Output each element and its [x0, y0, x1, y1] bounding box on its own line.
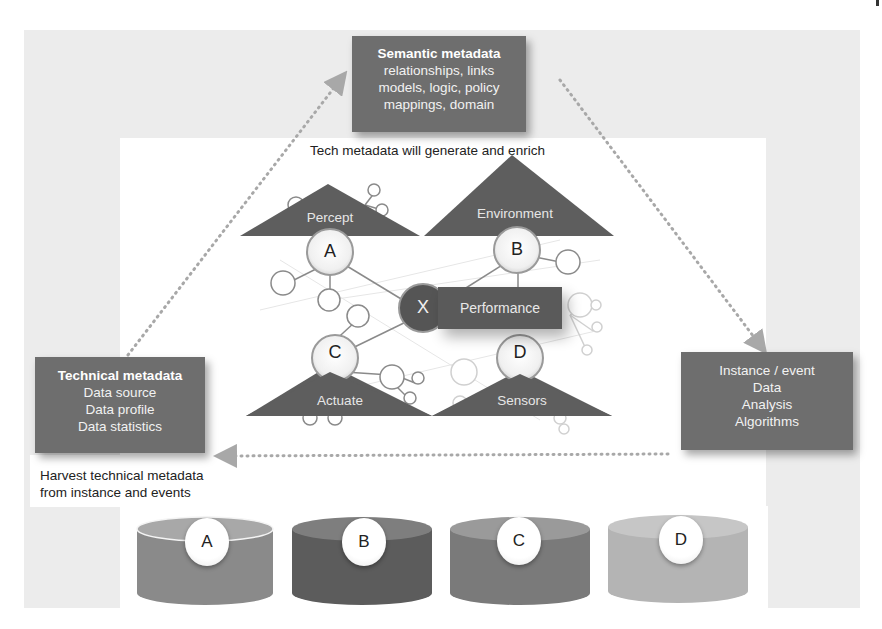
- performance-box: Performance: [438, 287, 562, 329]
- technical-metadata-title: Technical metadata: [35, 367, 205, 384]
- instance-event-box: Instance / event Data Analysis Algorithm…: [681, 352, 853, 450]
- percept-label: Percept: [280, 210, 380, 225]
- instance-line: Algorithms: [681, 413, 853, 430]
- semantic-line: models, logic, policy: [352, 79, 526, 96]
- technical-line: Data profile: [35, 401, 205, 418]
- environment-label: Environment: [460, 206, 570, 221]
- node-x-label: X: [411, 297, 435, 318]
- semantic-line: relationships, links: [352, 62, 526, 79]
- instance-line: Instance / event: [681, 362, 853, 379]
- tech-metadata-caption: Tech metadata will generate and enrich: [310, 142, 545, 159]
- harvest-caption: Harvest technical metadata from instance…: [40, 467, 204, 501]
- technical-line: Data statistics: [35, 418, 205, 435]
- dotted-arrows: [128, 80, 760, 456]
- sensors-label: Sensors: [472, 393, 572, 408]
- technical-line: Data source: [35, 384, 205, 401]
- instance-line: Data: [681, 379, 853, 396]
- cylinder-b-badge: B: [342, 518, 386, 566]
- harvest-caption-line1: Harvest technical metadata: [40, 467, 204, 484]
- node-a-label: A: [318, 241, 342, 262]
- cylinder-d-badge: D: [659, 516, 703, 564]
- instance-line: Analysis: [681, 396, 853, 413]
- cylinder-a-badge: A: [185, 518, 229, 566]
- node-b-label: B: [505, 239, 529, 260]
- semantic-metadata-box: Semantic metadata relationships, links m…: [352, 36, 526, 132]
- arrow-instance-to-technical: [225, 454, 668, 456]
- node-d-label: D: [508, 342, 532, 363]
- environment-triangle: [424, 155, 614, 236]
- technical-metadata-box: Technical metadata Data source Data prof…: [35, 357, 205, 453]
- semantic-metadata-title: Semantic metadata: [352, 45, 526, 62]
- semantic-line: mappings, domain: [352, 96, 526, 113]
- harvest-caption-line2: from instance and events: [40, 484, 204, 501]
- actuate-label: Actuate: [290, 393, 390, 408]
- node-c-label: C: [323, 342, 347, 363]
- cylinder-c-badge: C: [497, 517, 541, 565]
